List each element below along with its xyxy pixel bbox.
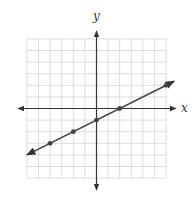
data-point [117,106,122,111]
coordinate-plane: x y [0,0,195,201]
data-point [48,141,53,146]
x-axis-label: x [181,101,188,115]
data-point [71,129,76,134]
data-point [164,83,169,88]
y-axis-label: y [92,9,100,23]
data-point [94,118,99,123]
